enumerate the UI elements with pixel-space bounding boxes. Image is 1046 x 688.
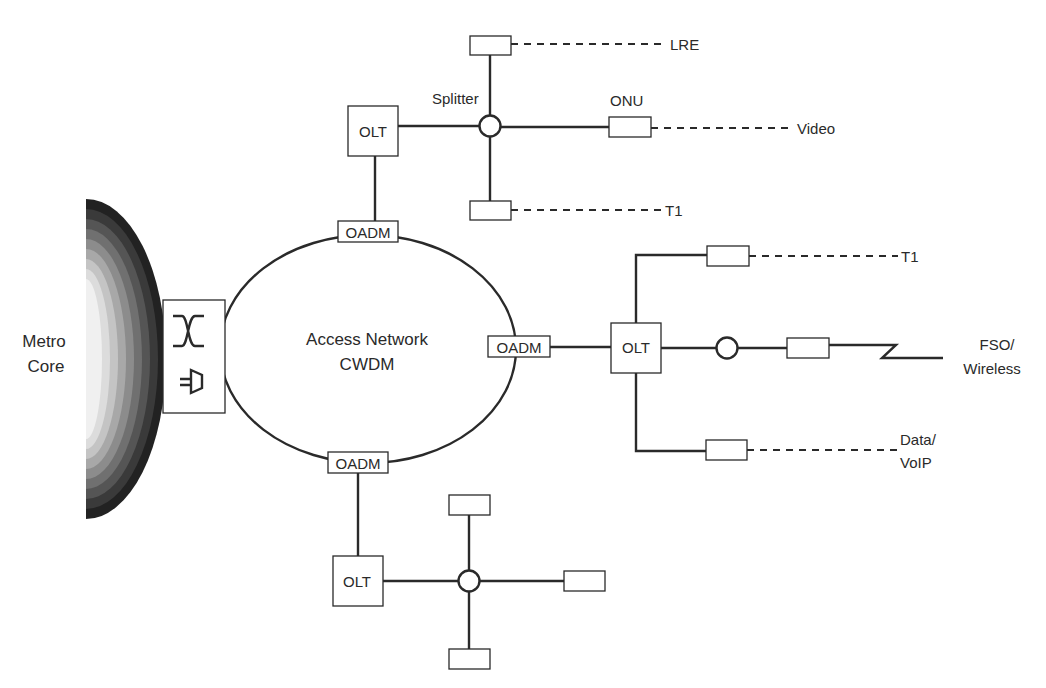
svg-text:OLT: OLT	[343, 573, 371, 590]
ring-label: Access Network	[306, 330, 428, 349]
service-fso: FSO/	[979, 336, 1015, 353]
oadm-bottom: OADM	[328, 452, 388, 473]
cwdm-access-network-diagram: Metro Core Access Network CWDM OADM OADM…	[0, 0, 1046, 688]
svg-text:OADM: OADM	[346, 224, 391, 241]
cwdm-ring	[220, 235, 516, 463]
svg-text:OLT: OLT	[622, 339, 650, 356]
service-fso-2: Wireless	[963, 360, 1021, 377]
olt-bottom: OLT	[333, 556, 383, 606]
onu-bottom-bottom	[449, 649, 490, 669]
splitter-bottom	[459, 571, 480, 592]
onu-lre	[470, 36, 511, 55]
olt-right: OLT	[611, 323, 661, 373]
onu-bottom-top	[449, 495, 490, 515]
metro-core-label: Metro	[22, 332, 65, 351]
service-data-2: VoIP	[900, 454, 932, 471]
onu-fso	[787, 338, 829, 358]
service-lre: LRE	[670, 36, 699, 53]
service-t1-top: T1	[665, 202, 683, 219]
service-video: Video	[797, 120, 835, 137]
splitter-label: Splitter	[432, 90, 479, 107]
metro-core-label-2: Core	[28, 357, 65, 376]
oadm-right: OADM	[488, 336, 550, 357]
wireless-link-icon	[829, 345, 943, 358]
onu-t1-right	[707, 246, 749, 266]
ring-label-2: CWDM	[340, 355, 395, 374]
splitter-top	[480, 116, 501, 137]
onu-bottom-right	[564, 571, 605, 591]
service-t1-right: T1	[901, 248, 919, 265]
svg-text:OLT: OLT	[359, 123, 387, 140]
core-switch-node	[163, 300, 225, 413]
onu-data	[706, 440, 747, 460]
oadm-top: OADM	[338, 221, 398, 242]
onu-label: ONU	[610, 92, 643, 109]
olt-top: OLT	[348, 106, 398, 156]
svg-text:OADM: OADM	[497, 339, 542, 356]
svg-text:OADM: OADM	[336, 455, 381, 472]
onu-t1	[470, 201, 511, 220]
onu-video	[609, 117, 651, 137]
splitter-right	[717, 338, 738, 359]
service-data: Data/	[900, 431, 937, 448]
